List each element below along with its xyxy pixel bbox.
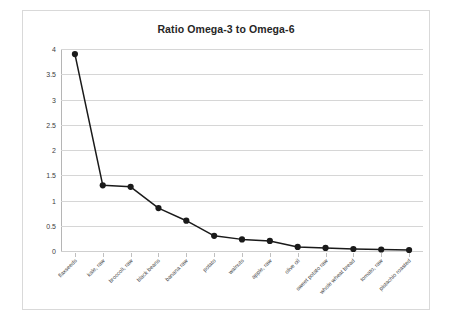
x-axis-tick [131,253,132,257]
x-axis-tick [326,253,327,257]
x-axis-tick-label-text: black beans [136,258,161,283]
y-axis-tick-label: 1.5 [46,172,56,179]
data-point-marker: apple, raw: 0.2 [267,238,273,244]
chart-frame: Ratio Omega-3 to Omega-6 00.511.522.533.… [22,10,430,310]
y-axis-tick-label: 4 [52,46,56,53]
data-point-marker: broccoli, raw: 1.27 [128,184,134,190]
x-axis-tick-label-text: tomato, raw [359,258,384,283]
x-axis-tick-label-text: olive oil [283,258,300,275]
x-axis-tick-label-text: kale, raw [86,258,106,278]
data-point-marker: walnuts: 0.23 [239,236,245,242]
data-point-marker: sweet potato raw: 0.06 [322,245,328,251]
data-point-marker: potato: 0.3 [211,233,217,239]
data-point-marker: banana raw: 0.6 [183,218,189,224]
data-point-marker: kale, raw: 1.3 [100,182,106,188]
x-axis-tick [103,253,104,257]
y-axis-tick-label: 3 [52,96,56,103]
y-axis-tick-label: 0 [52,248,56,255]
y-axis-tick-label: 1 [52,197,56,204]
x-axis-tick-label-text: walnuts [227,258,245,276]
data-point-marker: flaxseeds: 3.9 [72,51,78,57]
x-axis-tick-label-text: broccoli, raw [107,258,133,284]
x-axis-tick-label-text: flaxseeds [57,258,78,279]
y-axis-tick-label: 2 [52,147,56,154]
x-axis-tick-label-text: potato [202,258,217,273]
y-axis-tick-label: 0.5 [46,222,56,229]
data-series-omega-ratio: flaxseeds: 3.9kale, raw: 1.3broccoli, ra… [61,49,423,251]
data-point-marker: whole wheat bread: 0.04 [350,246,356,252]
y-axis-tick-label: 3.5 [46,71,56,78]
data-point-marker: olive oil: 0.08 [295,244,301,250]
plot-area: 00.511.522.533.54 flaxseeds: 3.9kale, ra… [61,49,423,251]
series-line [75,54,409,250]
y-axis-tick-label: 2.5 [46,121,56,128]
chart-title: Ratio Omega-3 to Omega-6 [23,23,429,35]
x-axis-tick-labels: flaxseedskale, rawbroccoli, rawblack bea… [61,253,423,311]
data-point-marker: tomato, raw: 0.03 [378,246,384,252]
x-axis-tick [298,253,299,257]
x-axis-tick-label-text: apple, raw [250,258,272,280]
data-point-marker: black beans: 0.85 [155,205,161,211]
x-axis-tick-label-text: banana raw [164,258,189,283]
